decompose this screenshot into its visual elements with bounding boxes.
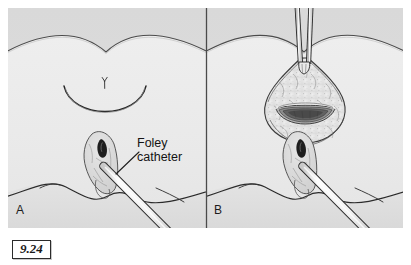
panel-b-artwork (201, 8, 403, 228)
foley-callout-line-2: catheter (137, 150, 182, 164)
foley-callout-line-1: Foley (137, 136, 182, 150)
foley-catheter-callout: Foley catheter (137, 136, 182, 164)
figure-number-box: 9.24 (12, 240, 51, 259)
illustration-plate: A B Foley catheter (8, 8, 403, 228)
figure-container: A B Foley catheter 9.24 (0, 0, 411, 265)
medical-illustration (8, 8, 403, 228)
panel-label-b: B (214, 203, 222, 217)
panel-label-a: A (16, 203, 24, 217)
panel-a-artwork (8, 8, 212, 228)
